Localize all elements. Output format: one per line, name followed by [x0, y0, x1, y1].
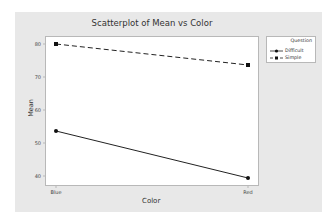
series-difficult-marker-blue [54, 129, 58, 133]
series-difficult-line [56, 131, 248, 178]
legend-difficult-icon [275, 49, 278, 52]
series-simple-line [56, 44, 248, 65]
legend: Question Difficult Simple [266, 36, 316, 63]
series-simple-marker-blue [54, 42, 58, 46]
series-simple-marker-red [246, 63, 250, 67]
series-difficult-marker-red [246, 176, 250, 180]
legend-simple-icon [275, 57, 278, 60]
legend-item-simple: Simple [285, 55, 301, 60]
legend-item-difficult: Difficult [285, 48, 304, 53]
chart-lines [0, 0, 332, 224]
